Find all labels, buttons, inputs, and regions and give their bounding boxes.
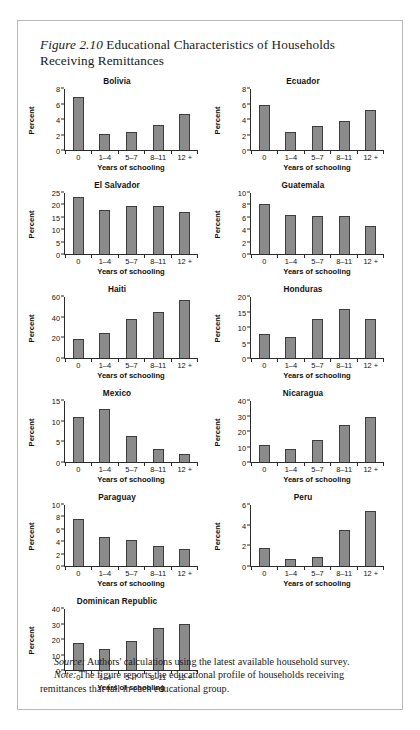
x-axis-tick-label: 8–11 — [145, 153, 172, 162]
y-axis-tick-label: 60 — [52, 293, 64, 302]
bar-slot — [331, 89, 358, 150]
bar — [259, 445, 270, 462]
y-axis-tick-label: 30 — [238, 412, 250, 421]
x-axis-tick-labels: 01–45–78–1112 + — [251, 153, 384, 162]
bar — [179, 300, 190, 358]
figure-footnotes: Source: Authors' calculations using the … — [18, 655, 402, 695]
y-axis-tick-label: 10 — [238, 189, 250, 198]
y-axis-tick-mark — [61, 316, 64, 317]
y-axis-tick-label: 20 — [52, 636, 64, 645]
chart-panel: BoliviaPercent0246801–45–78–1112 +Years … — [24, 77, 210, 181]
y-axis-tick-mark — [247, 311, 250, 312]
y-axis-label-text: Percent — [213, 522, 222, 550]
bar-series — [65, 505, 198, 566]
y-axis-tick-mark — [61, 229, 64, 230]
y-axis-tick-mark — [61, 103, 64, 104]
x-axis-tick-label: 12 + — [357, 465, 384, 474]
chart-title: Peru — [210, 493, 396, 502]
y-axis-label-text: Percent — [27, 106, 36, 134]
y-axis-tick-label: 0 — [56, 459, 64, 468]
x-axis-tick-label: 8–11 — [331, 569, 358, 578]
bar-series — [251, 89, 384, 150]
y-axis-label: Percent — [26, 195, 37, 253]
bar — [73, 197, 84, 254]
y-axis-label-text: Percent — [27, 418, 36, 446]
x-axis-tick-label: 0 — [251, 465, 278, 474]
chart-panel: El SalvadorPercent051015202501–45–78–111… — [24, 181, 210, 285]
x-axis-tick-label: 8–11 — [331, 361, 358, 370]
x-axis-tick-label: 12 + — [357, 153, 384, 162]
y-axis-label: Percent — [26, 91, 37, 149]
bar — [153, 125, 164, 150]
y-axis-tick-label: 4 — [242, 521, 250, 530]
bar — [153, 312, 164, 358]
bar-series — [65, 297, 198, 358]
bar — [126, 540, 137, 566]
source-note: Source: Authors' calculations using the … — [40, 655, 382, 668]
y-axis-tick-mark — [247, 431, 250, 432]
y-axis-tick-mark — [61, 241, 64, 242]
bar — [285, 559, 296, 566]
y-axis-tick-label: 0 — [242, 147, 250, 156]
bar-slot — [304, 505, 331, 566]
bar-slot — [65, 89, 92, 150]
bar — [73, 339, 84, 358]
bar-slot — [145, 297, 172, 358]
y-axis-label: Percent — [26, 299, 37, 357]
bar — [73, 97, 84, 150]
y-axis-label: Percent — [212, 91, 223, 149]
bar — [259, 105, 270, 150]
x-axis-tick-label: 8–11 — [145, 569, 172, 578]
y-axis-tick-label: 6 — [242, 100, 250, 109]
y-axis-tick-label: 8 — [56, 513, 64, 522]
y-axis-tick-mark — [61, 541, 64, 542]
bar — [339, 309, 350, 358]
x-axis-label: Years of schooling — [64, 267, 198, 276]
y-axis-label: Percent — [26, 403, 37, 461]
bar-slot — [304, 89, 331, 150]
y-axis-tick-mark — [61, 441, 64, 442]
source-label: Source: — [54, 656, 85, 667]
x-axis-tick-label: 5–7 — [118, 569, 145, 578]
y-axis-tick-label: 40 — [52, 605, 64, 614]
y-axis-tick-label: 15 — [238, 308, 250, 317]
bar — [312, 557, 323, 566]
x-axis-tick-label: 8–11 — [145, 465, 172, 474]
bar — [99, 333, 110, 358]
bar-slot — [145, 401, 172, 462]
x-axis-tick-labels: 01–45–78–1112 + — [65, 153, 198, 162]
x-axis-tick-label: 12 + — [171, 569, 198, 578]
y-axis-tick-label: 6 — [242, 501, 250, 510]
y-axis-tick-label: 25 — [52, 189, 64, 198]
y-axis-tick-mark — [61, 337, 64, 338]
y-axis-tick-mark — [61, 192, 64, 193]
chart-title: Ecuador — [210, 77, 396, 86]
chart-panel: EcuadorPercent0246801–45–78–1112 +Years … — [210, 77, 396, 181]
bar-slot — [118, 297, 145, 358]
y-axis-tick-mark — [61, 516, 64, 517]
y-axis-label-text: Percent — [213, 106, 222, 134]
x-axis-tick-label: 5–7 — [118, 465, 145, 474]
bar — [312, 440, 323, 462]
bar-slot — [118, 89, 145, 150]
plot-area: 0204060 — [64, 297, 198, 359]
bar-slot — [92, 193, 119, 254]
y-axis-tick-mark — [247, 545, 250, 546]
figure-title: Figure 2.10 Educational Characteristics … — [18, 21, 402, 68]
bar-series — [251, 297, 384, 358]
x-axis-tick-label: 1–4 — [92, 465, 119, 474]
y-axis-label: Percent — [212, 299, 223, 357]
y-axis-tick-label: 2 — [242, 131, 250, 140]
bar-slot — [357, 297, 384, 358]
bar — [285, 449, 296, 462]
y-axis-tick-mark — [61, 204, 64, 205]
y-axis-tick-label: 2 — [56, 131, 64, 140]
bar-slot — [171, 401, 198, 462]
plot-area: 02468 — [64, 89, 198, 151]
bar-slot — [357, 505, 384, 566]
bar-slot — [278, 401, 305, 462]
chart-panel: HondurasPercent0510152001–45–78–1112 +Ye… — [210, 285, 396, 389]
bar-slot — [357, 401, 384, 462]
plot-area: 0510152025 — [64, 193, 198, 255]
y-axis-tick-label: 0 — [56, 355, 64, 364]
